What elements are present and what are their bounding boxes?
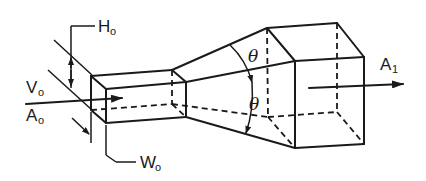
width-dimension xyxy=(72,112,136,162)
outlet-flow-arrow xyxy=(309,84,403,88)
diverging-section xyxy=(172,28,295,148)
svg-text:o: o xyxy=(38,114,44,126)
svg-text:o: o xyxy=(155,161,161,173)
label-h-o: H o xyxy=(98,17,116,37)
svg-text:W: W xyxy=(140,153,156,172)
svg-text:V: V xyxy=(26,78,38,97)
height-dimension xyxy=(48,26,95,110)
svg-text:1: 1 xyxy=(392,63,398,75)
svg-text:o: o xyxy=(38,86,44,98)
label-theta-bottom: θ xyxy=(249,94,259,114)
label-a-o: A o xyxy=(26,106,44,126)
inlet-section xyxy=(91,70,186,123)
svg-text:o: o xyxy=(110,25,116,37)
svg-text:H: H xyxy=(98,17,110,36)
diffuser-diagram: H o V o A o W o A 1 θ θ xyxy=(0,0,426,181)
label-a-1: A 1 xyxy=(380,55,398,75)
label-w-o: W o xyxy=(140,153,161,173)
inlet-flow-arrow xyxy=(26,98,122,104)
label-theta-top: θ xyxy=(248,46,258,66)
svg-text:A: A xyxy=(26,106,38,125)
label-v-o: V o xyxy=(26,78,44,98)
svg-text:A: A xyxy=(380,55,392,74)
